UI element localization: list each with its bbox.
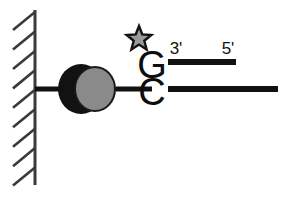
three-prime-label: 3' bbox=[170, 39, 183, 58]
wall-hatch-line bbox=[13, 31, 35, 49]
wall-hatch-line bbox=[13, 90, 35, 108]
wall-hatch-marks bbox=[13, 12, 35, 186]
wall-hatch-line bbox=[13, 12, 35, 30]
base-letter-c: C bbox=[138, 71, 165, 113]
wall-hatch-line bbox=[13, 168, 35, 186]
wall-hatch-line bbox=[13, 129, 35, 147]
wall-hatch-line bbox=[13, 109, 35, 127]
particle-front-ellipse bbox=[75, 67, 115, 111]
wall-hatch-line bbox=[13, 51, 35, 69]
particle-group bbox=[58, 64, 115, 114]
five-prime-label: 5' bbox=[222, 39, 235, 58]
wall-hatch-line bbox=[13, 148, 35, 166]
diagram-svg: Surface-tethered DNA duplex with labeled… bbox=[0, 0, 291, 199]
figure-canvas: Surface-tethered DNA duplex with labeled… bbox=[0, 0, 291, 199]
wall-group bbox=[13, 10, 35, 186]
wall-hatch-line bbox=[13, 70, 35, 88]
